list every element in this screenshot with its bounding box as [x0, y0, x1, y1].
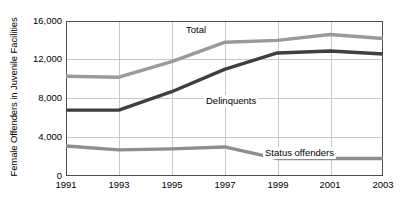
x-tick-1995: 1995	[149, 179, 195, 191]
x-tick-1991: 1991	[43, 179, 89, 191]
series-label-status-offenders: Status offenders	[263, 147, 336, 159]
gridline-1993	[119, 22, 120, 175]
x-tick-1997: 1997	[202, 179, 248, 191]
x-tick-1993: 1993	[96, 179, 142, 191]
x-tick-2003: 2003	[360, 179, 404, 191]
y-tick-12000: 12,000	[6, 53, 62, 65]
chart-figure: Female Offenders in Juvenile Facilities …	[0, 0, 404, 204]
y-tick-16000: 16,000	[6, 15, 62, 27]
x-tick-1999: 1999	[255, 179, 301, 191]
x-tick-2001: 2001	[307, 179, 353, 191]
y-tick-8000: 8,000	[6, 92, 62, 104]
series-label-total: Total	[184, 24, 208, 36]
y-axis-tick-labels: 16,000 12,000 8,000 4,000 0	[0, 0, 62, 204]
y-tick-4000: 4,000	[6, 131, 62, 143]
series-label-delinquents: Delinquents	[204, 95, 258, 107]
gridline-1995	[172, 22, 173, 175]
